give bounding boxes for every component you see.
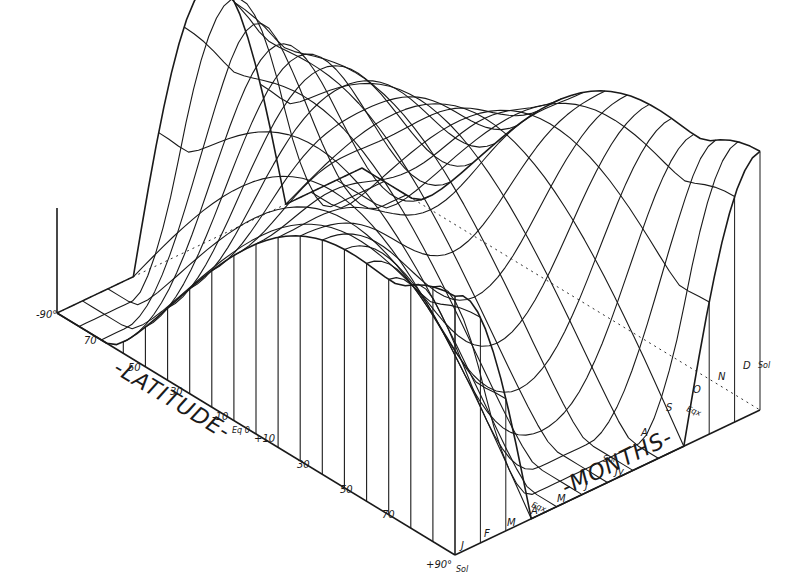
lat-tick: 70 <box>84 335 97 346</box>
surface-latitude-line <box>389 134 694 435</box>
months-axis-line <box>455 410 760 555</box>
surface-month-line <box>210 0 608 483</box>
lat-tick: Eq 0 <box>232 426 250 435</box>
surface-latitude-line <box>367 118 672 392</box>
lat-tick: 50 <box>340 484 353 495</box>
month-tick: M <box>507 517 516 528</box>
surface-latitude-line <box>123 44 428 342</box>
month-tick: N <box>718 371 726 382</box>
equinox-label-sept: Eqx <box>685 404 702 418</box>
surface-plot-svg: -LATITUDE- -MONTHS- -90° +90° Sol Eqx. S… <box>0 0 809 574</box>
lat-tick: 30 <box>297 459 310 470</box>
surface-month-line <box>260 83 658 458</box>
month-tick: A <box>640 427 648 438</box>
surface-plot-figure: -LATITUDE- -MONTHS- -90° +90° Sol Eqx. S… <box>0 0 809 574</box>
month-tick: M <box>557 493 566 504</box>
surface-latitude-line <box>300 91 605 256</box>
back-axis-dotted <box>362 168 760 410</box>
month-tick: S <box>666 402 673 413</box>
surface-latitude-line <box>278 92 583 237</box>
surface-latitude-line <box>212 97 517 271</box>
axes <box>57 168 760 555</box>
lat-tick: 70 <box>382 509 395 520</box>
solstice-label-start: Sol <box>456 565 469 574</box>
month-tick: D <box>743 360 751 371</box>
latitude-tick-labels: 70 50 30 -10 Eq 0 +10 30 50 70 <box>84 335 395 520</box>
lat-tick: +10 <box>254 433 275 444</box>
solstice-label-dec: Sol <box>758 361 771 370</box>
month-tick: Jy <box>613 466 625 477</box>
month-tick: F <box>484 528 490 539</box>
surface-month-line <box>362 91 760 200</box>
latitude-end-label: +90° <box>426 559 452 570</box>
month-tick: J <box>459 540 464 551</box>
latitude-start-label: -90° <box>36 309 57 320</box>
lat-tick: 30 <box>170 386 183 397</box>
solstice-label-june: Sol <box>603 455 616 464</box>
lat-tick: 50 <box>128 362 141 373</box>
months-axis-title: -MONTHS- <box>557 424 676 499</box>
surface-latitude-line <box>234 108 539 255</box>
month-tick: O <box>693 384 701 395</box>
month-tick: A <box>530 505 538 516</box>
surface-mesh <box>57 0 760 555</box>
surface-month-line <box>159 132 557 507</box>
surface-latitude-line <box>322 95 627 300</box>
lat-tick: -10 <box>212 411 228 422</box>
